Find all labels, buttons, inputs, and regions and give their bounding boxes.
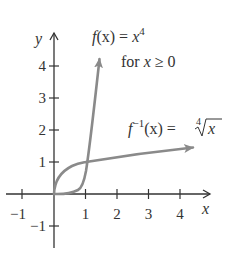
x-tick-label: 2 — [113, 206, 121, 222]
y-tick-label: 2 — [39, 122, 47, 138]
inv-exponent: −1 — [132, 117, 144, 129]
f-domain-condition: for x ≥ 0 — [121, 53, 176, 70]
function-graph: −1 1 2 3 4 4 3 2 1 −1 x y f(x) = x4 for … — [0, 0, 236, 255]
f-function-label: f(x) = x4 — [92, 25, 145, 46]
f-inverse-label: f−1(x) = — [128, 117, 176, 138]
radical-radicand: x — [207, 120, 215, 137]
f-exponent: 4 — [139, 25, 145, 37]
y-tick-label: −1 — [30, 218, 46, 234]
radical-index: 4 — [196, 116, 201, 127]
cond-var: x — [143, 53, 151, 70]
f-inverse-curve — [54, 148, 193, 195]
x-tick-label: 4 — [176, 206, 184, 222]
x-axis-label: x — [201, 200, 209, 217]
x-tick-label: 1 — [82, 206, 90, 222]
f-var: x — [131, 28, 139, 45]
f-paren: (x) = — [96, 28, 132, 46]
y-axis-label: y — [33, 30, 43, 48]
inv-paren: (x) = — [144, 120, 176, 138]
y-tick-label: 4 — [39, 58, 47, 74]
y-tick-label: 3 — [39, 90, 47, 106]
x-tick-label: −1 — [10, 206, 26, 222]
cond-relation: ≥ 0 — [151, 53, 176, 70]
y-tick-labels: 4 3 2 1 −1 — [30, 58, 46, 234]
y-tick-label: 1 — [39, 154, 47, 170]
radical-sign-icon: 4 x — [195, 116, 222, 137]
cond-for: for — [121, 53, 144, 70]
x-tick-label: 3 — [145, 206, 153, 222]
